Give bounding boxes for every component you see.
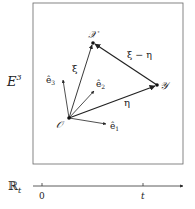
- diagram-canvas: E3 ê1 ê2 ê3 ξ η ξ − η 𝒪 𝒳 𝒴 ℝt 0 t: [0, 0, 195, 209]
- origin-point: [67, 116, 71, 120]
- point-x: [91, 41, 95, 45]
- origin-label: 𝒪: [56, 119, 65, 130]
- basis-e1-label: ê1: [110, 121, 119, 132]
- xi-vector: [69, 45, 92, 118]
- basis-e2-label: ê2: [96, 79, 105, 90]
- time-axis-label: ℝt: [8, 179, 22, 195]
- basis-e3-label: ê3: [46, 75, 55, 86]
- eta-vector: [69, 86, 155, 118]
- basis-e3-arrow: [63, 80, 69, 118]
- space-label: E3: [6, 73, 22, 89]
- tick-zero-label: 0: [39, 191, 45, 201]
- point-x-label: 𝒳: [88, 29, 100, 40]
- basis-e1-arrow: [69, 118, 106, 124]
- point-y: [155, 83, 159, 87]
- point-y-label: 𝒴: [160, 80, 171, 91]
- tick-t-label: t: [141, 191, 145, 201]
- xi-minus-eta-label: ξ − η: [127, 49, 152, 60]
- xi-label: ξ: [72, 63, 78, 74]
- eta-label: η: [124, 97, 130, 108]
